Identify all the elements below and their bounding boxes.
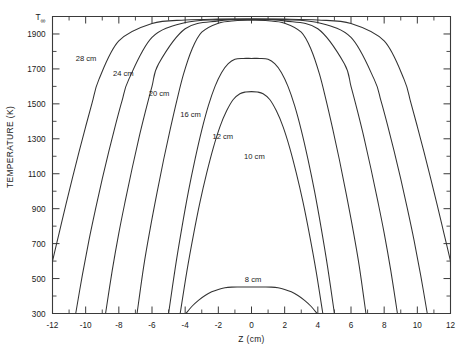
y-tick-label: 700 [32, 240, 46, 249]
x-tick-label: -10 [80, 321, 92, 330]
x-tick-label: 4 [316, 321, 321, 330]
curve-label-24-cm: 24 cm [113, 69, 134, 78]
x-tick-label: -6 [148, 321, 156, 330]
y-axis-title: TEMPERATURE (K) [5, 106, 15, 188]
curve-20-cm [106, 19, 398, 313]
curve-label-16-cm: 16 cm [180, 110, 201, 119]
curve-label-12-cm: 12 cm [213, 132, 234, 141]
y-tick-label-tinf: T∞ [35, 12, 45, 24]
curves-group [43, 19, 461, 313]
x-tick-label: -8 [115, 321, 123, 330]
x-tick-label: 6 [349, 321, 354, 330]
curve-label-10-cm: 10 cm [244, 152, 265, 161]
x-tick-label: 10 [413, 321, 423, 330]
x-tick-label: 0 [249, 321, 254, 330]
curve-24-cm [76, 19, 428, 313]
x-tick-label: -4 [182, 321, 190, 330]
curve-label-28-cm: 28 cm [76, 54, 97, 63]
x-tick-label: -12 [47, 321, 59, 330]
x-tick-label: 12 [446, 321, 456, 330]
curve-16-cm [137, 20, 366, 313]
y-tick-label: 1500 [27, 100, 46, 109]
curve-label-8-cm: 8 cm [245, 275, 261, 284]
curve-label-20-cm: 20 cm [149, 89, 170, 98]
y-tick-label: 1900 [27, 30, 46, 39]
y-tick-label: 300 [32, 310, 46, 319]
chart-figure: 30050070090011001300150017001900T∞-12-10… [0, 0, 467, 344]
y-tick-label: 500 [32, 275, 46, 284]
x-tick-label: -2 [215, 321, 223, 330]
x-tick-label: 8 [382, 321, 387, 330]
y-tick-label: 1300 [27, 135, 46, 144]
x-axis-title: Z (cm) [238, 334, 265, 344]
y-tick-label: 1100 [28, 170, 46, 179]
y-tick-label: 900 [32, 205, 46, 214]
y-tick-label: 1700 [27, 65, 46, 74]
temperature-profile-chart: 30050070090011001300150017001900T∞-12-10… [0, 0, 467, 344]
x-tick-label: 2 [282, 321, 287, 330]
